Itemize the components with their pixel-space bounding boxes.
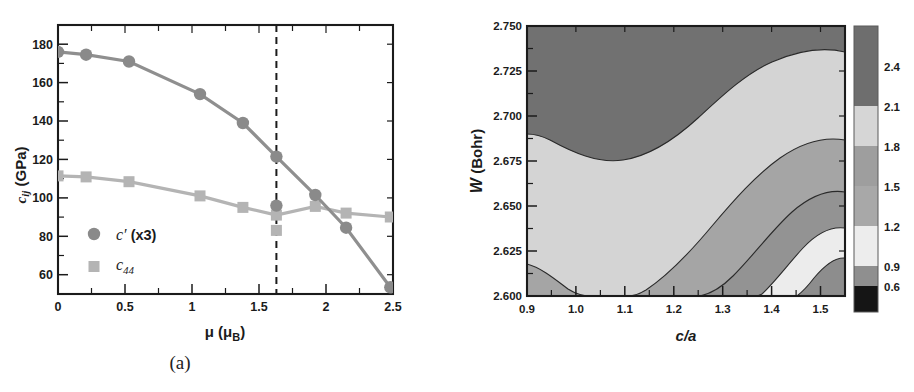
- colorbar-label-1p2: 1.2: [884, 221, 900, 233]
- panel-a-label: (a): [150, 352, 210, 374]
- legend-marker-cprime: [88, 228, 100, 240]
- svg-text:0.9: 0.9: [519, 303, 535, 315]
- colorbar-swatch-below-0p6: [854, 286, 878, 312]
- panel-b-contour-field: [527, 26, 845, 296]
- panel-a-y-axis-title: cij (GPa): [12, 147, 31, 204]
- svg-text:2: 2: [323, 300, 330, 314]
- svg-text:180: 180: [32, 38, 53, 52]
- legend-label-cprime: c′ (x3): [116, 226, 157, 243]
- svg-text:2.675: 2.675: [493, 155, 522, 167]
- colorbar-label-1p5: 1.5: [884, 181, 901, 193]
- series-c44-line: [58, 176, 390, 217]
- svg-text:160: 160: [32, 76, 53, 90]
- panel-a-x-axis-title: μ (μB): [205, 323, 245, 343]
- series-cprime-markers: [52, 46, 397, 294]
- panel-a-legend: c′ (x3) c44: [88, 226, 157, 276]
- colorbar-swatch-1p8-2p1: [854, 106, 878, 146]
- svg-text:0: 0: [55, 300, 62, 314]
- panel-b-colorbar: 2.4 2.1 1.8 1.5 1.2 0.9 0.6: [854, 26, 901, 312]
- svg-text:2.750: 2.750: [493, 20, 522, 32]
- panel-b-svg: 2.750 2.725 2.700 2.675 2.650 2.625 2.60…: [460, 0, 914, 392]
- colorbar-label-2p1: 2.1: [884, 101, 901, 113]
- svg-text:2.725: 2.725: [493, 65, 522, 77]
- svg-text:1.3: 1.3: [715, 303, 731, 315]
- colorbar-label-0p9: 0.9: [884, 261, 900, 273]
- colorbar-label-0p6: 0.6: [884, 281, 900, 293]
- panel-b-x-axis-title: c/a: [676, 327, 697, 344]
- svg-text:80: 80: [39, 230, 53, 244]
- panel-a-x-ticks: 0 0.5 1 1.5 2 2.5: [55, 25, 402, 314]
- svg-text:1.0: 1.0: [568, 303, 584, 315]
- colorbar-label-1p8: 1.8: [884, 141, 901, 153]
- colorbar-swatch-1p2-1p5: [854, 186, 878, 226]
- figure-container: 180 160 140 120 100 80 60: [0, 0, 914, 392]
- panel-a-data-layer: [52, 46, 397, 294]
- panel-a-plot-frame: [58, 25, 393, 294]
- colorbar-swatch-2p1-2p4: [854, 66, 878, 106]
- svg-text:1.5: 1.5: [813, 303, 830, 315]
- svg-text:1.5: 1.5: [250, 300, 267, 314]
- colorbar-swatch-1p5-1p8: [854, 146, 878, 186]
- svg-text:140: 140: [32, 114, 53, 128]
- svg-text:1: 1: [189, 300, 196, 314]
- panel-b-contour-chart: 2.750 2.725 2.700 2.675 2.650 2.625 2.60…: [460, 0, 914, 392]
- svg-text:100: 100: [32, 191, 53, 205]
- svg-text:2.600: 2.600: [493, 290, 522, 302]
- svg-text:1.1: 1.1: [617, 303, 634, 315]
- panel-a-line-chart: 180 160 140 120 100 80 60: [0, 0, 460, 392]
- colorbar-swatch-0p9-1p2: [854, 226, 878, 266]
- svg-text:60: 60: [39, 268, 53, 282]
- svg-text:0.5: 0.5: [116, 300, 133, 314]
- svg-text:2.650: 2.650: [493, 200, 522, 212]
- svg-text:120: 120: [32, 153, 53, 167]
- panel-b-y-axis-title: W (Bohr): [468, 129, 485, 193]
- panel-a-svg: 180 160 140 120 100 80 60: [0, 0, 460, 392]
- svg-text:2.625: 2.625: [493, 245, 522, 257]
- legend-marker-c44: [89, 261, 100, 272]
- panel-a-y-ticks: 180 160 140 120 100 80 60: [32, 38, 393, 294]
- svg-text:2.5: 2.5: [384, 300, 401, 314]
- colorbar-label-2p4: 2.4: [884, 61, 901, 73]
- series-cprime-line: [58, 52, 390, 287]
- svg-text:1.4: 1.4: [764, 303, 781, 315]
- svg-text:2.700: 2.700: [493, 110, 522, 122]
- legend-label-c44: c44: [116, 256, 135, 276]
- colorbar-swatch-0p6-0p9: [854, 266, 878, 286]
- colorbar-swatch-top: [854, 26, 878, 66]
- svg-text:1.2: 1.2: [666, 303, 682, 315]
